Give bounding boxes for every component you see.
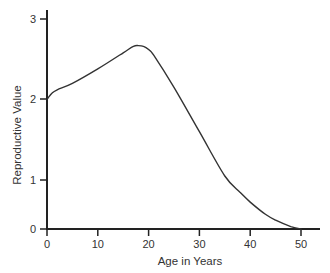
y-tick-label: 3: [30, 13, 36, 25]
x-tick-label: 50: [295, 238, 307, 250]
reproductive-value-chart: 0123 01020304050 Age in Years Reproducti…: [0, 0, 330, 273]
y-tick-label: 1: [30, 174, 36, 186]
y-ticks: 0123: [30, 13, 47, 235]
y-tick-label: 2: [30, 93, 36, 105]
x-ticks: 01020304050: [44, 229, 307, 250]
x-tick-label: 20: [142, 238, 154, 250]
y-axis-title: Reproductive Value: [11, 85, 23, 185]
x-tick-label: 0: [44, 238, 50, 250]
y-tick-label: 0: [30, 223, 36, 235]
x-tick-label: 10: [92, 238, 104, 250]
reproductive-value-curve: [47, 46, 301, 229]
x-tick-label: 40: [244, 238, 256, 250]
x-tick-label: 30: [193, 238, 205, 250]
x-axis-title: Age in Years: [158, 255, 223, 267]
